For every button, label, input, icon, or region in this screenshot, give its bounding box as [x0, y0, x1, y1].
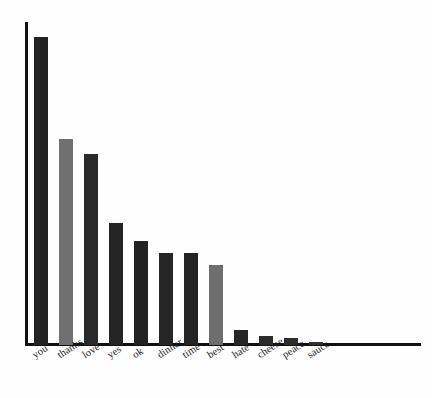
x-label-yes: yes: [105, 343, 123, 360]
x-label-hate: hate: [230, 341, 251, 360]
x-axis-labels: youthanksloveyesokdinnertimebesthatechee…: [0, 0, 432, 398]
x-label-peace: peace: [280, 338, 306, 361]
x-label-thanks: thanks: [55, 336, 84, 360]
bar-chart: youthanksloveyesokdinnertimebesthatechee…: [0, 0, 432, 398]
x-label-dinner: dinner: [155, 336, 184, 360]
x-label-you: you: [30, 342, 49, 360]
x-label-best: best: [205, 342, 226, 361]
x-label-ok: ok: [130, 345, 145, 360]
x-label-sauce: sauce: [305, 338, 331, 360]
x-label-cheese: cheese: [255, 335, 285, 360]
